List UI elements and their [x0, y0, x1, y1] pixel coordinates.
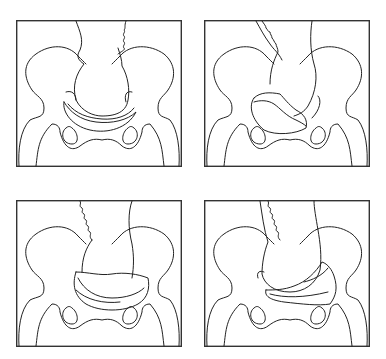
pelvis-diagram: [204, 20, 370, 167]
pelvis-diagram: [16, 200, 182, 347]
pelvis-diagram: [16, 20, 182, 167]
pelvis-diagram: [204, 200, 370, 347]
panel-top-left: [16, 20, 182, 167]
panel-top-right: [204, 20, 370, 167]
panel-bottom-right: [204, 200, 370, 347]
panel-bottom-left: [16, 200, 182, 347]
